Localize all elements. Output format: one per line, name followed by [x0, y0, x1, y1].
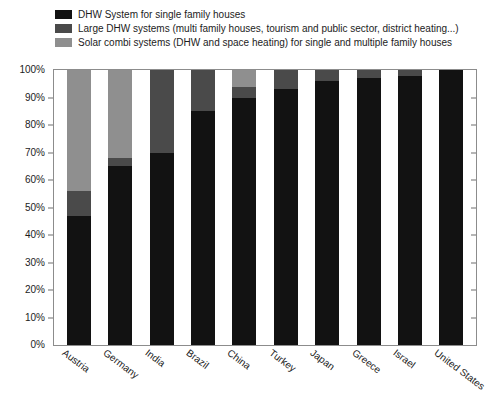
stacked-bar[interactable]	[274, 70, 298, 345]
bar-slot	[265, 70, 306, 345]
bar-segment[interactable]	[191, 111, 215, 345]
bar-segment[interactable]	[67, 70, 91, 191]
bar-slot	[141, 70, 182, 345]
bar-segment[interactable]	[108, 70, 132, 158]
bar-segment[interactable]	[150, 70, 174, 153]
y-axis-tick-label: 60%	[25, 175, 45, 185]
y-axis-tick-label: 40%	[25, 230, 45, 240]
bar-segment[interactable]	[108, 158, 132, 166]
stacked-bar[interactable]	[67, 70, 91, 345]
stacked-bar-chart: DHW System for single family houses Larg…	[0, 0, 491, 418]
x-axis-tick-label: Turkey	[267, 347, 298, 374]
bar-segment[interactable]	[439, 70, 463, 345]
bar-slot	[182, 70, 223, 345]
y-axis-tick-label: 10%	[25, 313, 45, 323]
y-axis-tick-label: 90%	[25, 93, 45, 103]
legend-item-dhw-single-family: DHW System for single family houses	[55, 8, 485, 21]
bar-slot	[348, 70, 389, 345]
stacked-bar[interactable]	[439, 70, 463, 345]
y-axis-tick-label: 50%	[25, 203, 45, 213]
bar-segment[interactable]	[357, 70, 381, 78]
legend-item-solar-combi: Solar combi systems (DHW and space heati…	[55, 36, 485, 49]
bar-segment[interactable]	[315, 70, 339, 81]
bar-segment[interactable]	[108, 166, 132, 345]
bar-segment[interactable]	[232, 98, 256, 346]
bar-slot	[99, 70, 140, 345]
stacked-bar[interactable]	[108, 70, 132, 345]
bar-segment[interactable]	[274, 89, 298, 345]
plot-area	[54, 70, 476, 345]
legend-swatch-icon-series-1	[55, 24, 72, 33]
legend-swatch-icon-series-2	[55, 38, 72, 47]
stacked-bar[interactable]	[357, 70, 381, 345]
y-axis-tick-label: 0%	[31, 340, 45, 350]
legend-label-series-0: DHW System for single family houses	[78, 9, 245, 20]
y-axis-tick-label: 20%	[25, 285, 45, 295]
legend-label-series-2: Solar combi systems (DHW and space heati…	[78, 37, 452, 48]
stacked-bar[interactable]	[150, 70, 174, 345]
y-axis-tick-label: 30%	[25, 258, 45, 268]
legend-label-series-1: Large DHW systems (multi family houses, …	[78, 23, 459, 34]
x-axis-tick-label: India	[143, 347, 167, 369]
stacked-bar[interactable]	[315, 70, 339, 345]
bar-segment[interactable]	[315, 81, 339, 345]
legend-swatch-icon-series-0	[55, 10, 72, 19]
x-axis-tick-label: United States	[433, 347, 488, 392]
bar-segment[interactable]	[398, 76, 422, 346]
bar-segment[interactable]	[357, 78, 381, 345]
bar-slot	[58, 70, 99, 345]
x-axis-tick-label: Greece	[350, 347, 383, 376]
bar-slot	[306, 70, 347, 345]
stacked-bar[interactable]	[232, 70, 256, 345]
y-axis: 0%10%20%30%40%50%60%70%80%90%100%	[0, 69, 53, 346]
bar-slot	[389, 70, 430, 345]
x-axis-tick-label: China	[226, 347, 253, 372]
legend-item-large-dhw: Large DHW systems (multi family houses, …	[55, 22, 485, 35]
chart-legend: DHW System for single family houses Larg…	[55, 8, 485, 50]
bar-slot	[431, 70, 472, 345]
stacked-bar[interactable]	[191, 70, 215, 345]
x-axis-tick-label: Germany	[101, 347, 140, 381]
bar-segment[interactable]	[191, 70, 215, 111]
x-axis-tick-label: Austria	[60, 347, 91, 375]
bar-slot	[224, 70, 265, 345]
bar-segment[interactable]	[232, 70, 256, 87]
y-axis-tick-label: 100%	[19, 65, 45, 75]
y-axis-tick-label: 80%	[25, 120, 45, 130]
bar-segment[interactable]	[67, 216, 91, 345]
x-axis: AustriaGermanyIndiaBrazilChinaTurkeyJapa…	[54, 347, 476, 417]
bar-segment[interactable]	[232, 87, 256, 98]
y-axis-tick-label: 70%	[25, 148, 45, 158]
bar-segment[interactable]	[67, 191, 91, 216]
bar-segment[interactable]	[150, 153, 174, 346]
bar-segment[interactable]	[274, 70, 298, 89]
x-axis-tick-label: Japan	[308, 347, 336, 372]
stacked-bar[interactable]	[398, 70, 422, 345]
x-axis-tick-label: Brazil	[184, 347, 211, 371]
x-axis-tick-label: Israel	[391, 347, 417, 371]
